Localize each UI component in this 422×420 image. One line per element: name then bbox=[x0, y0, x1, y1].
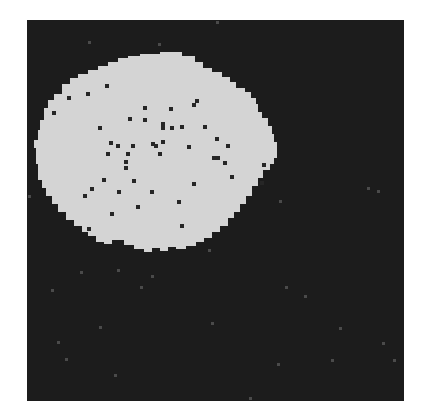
hole-dot bbox=[116, 144, 120, 148]
hole-dot bbox=[161, 126, 165, 130]
hole-dot bbox=[102, 178, 106, 182]
hole-dot bbox=[223, 161, 227, 165]
hole-dot bbox=[98, 126, 102, 130]
hole-dot bbox=[170, 126, 174, 130]
hole-dot bbox=[161, 122, 165, 126]
hole-dot bbox=[109, 141, 113, 145]
speckle-dot bbox=[377, 190, 380, 193]
hole-dot bbox=[124, 160, 128, 164]
speckle-dot bbox=[28, 195, 31, 198]
speckle-dot bbox=[285, 286, 288, 289]
hole-dot bbox=[203, 125, 207, 129]
hole-dot bbox=[260, 181, 264, 185]
hole-dot bbox=[117, 190, 121, 194]
speckle-dot bbox=[140, 286, 143, 289]
hole-dot bbox=[195, 99, 199, 103]
hole-dot bbox=[128, 117, 132, 121]
speckle-dot bbox=[279, 200, 282, 203]
speckle-dot bbox=[88, 41, 91, 44]
speckle-dot bbox=[99, 326, 102, 329]
hole-dot bbox=[131, 144, 135, 148]
hole-dot bbox=[216, 156, 220, 160]
hole-dot bbox=[83, 194, 87, 198]
hole-dot bbox=[187, 145, 191, 149]
hole-dot bbox=[86, 92, 90, 96]
hole-dot bbox=[136, 205, 140, 209]
speckle-dot bbox=[393, 359, 396, 362]
hole-dot bbox=[192, 182, 196, 186]
hole-dot bbox=[180, 125, 184, 129]
speckle-dot bbox=[114, 374, 117, 377]
speckle-dot bbox=[249, 397, 252, 400]
hole-dot bbox=[177, 200, 181, 204]
speckle-dot bbox=[382, 342, 385, 345]
hole-dot bbox=[262, 163, 266, 167]
speckle-dot bbox=[367, 187, 370, 190]
hole-dot bbox=[150, 190, 154, 194]
speckle-dot bbox=[117, 269, 120, 272]
hole-dot bbox=[132, 179, 136, 183]
hole-dot bbox=[90, 187, 94, 191]
speckle-dot bbox=[158, 43, 161, 46]
hole-dot bbox=[67, 96, 71, 100]
hole-dot bbox=[161, 140, 165, 144]
speckle-dot bbox=[151, 275, 154, 278]
hole-dot bbox=[180, 224, 184, 228]
hole-dot bbox=[105, 84, 109, 88]
speckle-dot bbox=[339, 327, 342, 330]
speckle-dot bbox=[65, 358, 68, 361]
hole-dot bbox=[143, 106, 147, 110]
segmentation-mask bbox=[27, 20, 404, 401]
speckle-dot bbox=[331, 359, 334, 362]
hole-dot bbox=[143, 118, 147, 122]
speckle-dot bbox=[80, 271, 83, 274]
hole-dot bbox=[212, 156, 216, 160]
hole-dot bbox=[87, 227, 91, 231]
hole-dot bbox=[154, 144, 158, 148]
hole-dot bbox=[124, 166, 128, 170]
speckle-dot bbox=[277, 363, 280, 366]
hole-dot bbox=[158, 152, 162, 156]
hole-dot bbox=[106, 152, 110, 156]
hole-dot bbox=[192, 103, 196, 107]
speckle-dot bbox=[51, 289, 54, 292]
hole-dot bbox=[52, 111, 56, 115]
hole-dot bbox=[215, 137, 219, 141]
hole-dot bbox=[110, 212, 114, 216]
hole-dot bbox=[126, 152, 130, 156]
hole-dot bbox=[230, 175, 234, 179]
hole-dot bbox=[169, 107, 173, 111]
image-frame bbox=[27, 20, 404, 401]
speckle-dot bbox=[216, 21, 219, 24]
speckle-dot bbox=[57, 341, 60, 344]
hole-dot bbox=[226, 144, 230, 148]
speckle-dot bbox=[211, 322, 214, 325]
speckle-dot bbox=[208, 249, 211, 252]
speckle-dot bbox=[304, 295, 307, 298]
